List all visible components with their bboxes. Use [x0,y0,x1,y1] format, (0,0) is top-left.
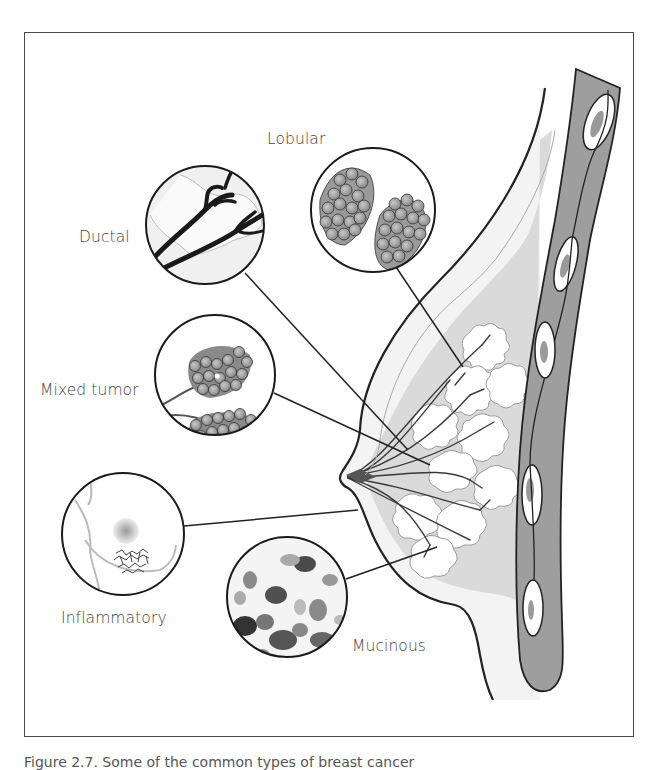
label-inflammatory: Inflammatory [61,609,167,627]
lobular-magnified-view [311,148,435,272]
inflammatory-magnified-view [62,473,184,600]
ductal-magnified-view [146,160,270,284]
label-ductal: Ductal [79,228,130,246]
figure-caption: Figure 2.7. Some of the common types of … [24,754,414,770]
label-mucinous: Mucinous [352,637,426,655]
mucinous-magnified-view [225,537,347,661]
mixed-tumor-magnified-view [155,315,275,449]
label-lobular: Lobular [267,130,325,148]
label-mixed-tumor: Mixed tumor [40,381,139,399]
